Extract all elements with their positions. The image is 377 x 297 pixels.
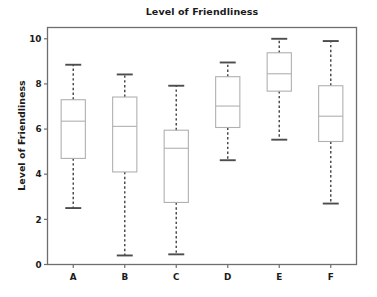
x-tick-group: ABCDEF bbox=[70, 265, 334, 282]
x-tick-label: D bbox=[224, 272, 231, 282]
boxplot-figure: Level of Friendliness Level of Friendlin… bbox=[0, 0, 377, 297]
x-tick-label: B bbox=[121, 272, 128, 282]
x-tick-label: A bbox=[70, 272, 77, 282]
plot-frame bbox=[48, 28, 357, 265]
y-tick-label: 8 bbox=[35, 79, 41, 89]
y-tick-label: 10 bbox=[29, 34, 41, 44]
x-tick-label: F bbox=[328, 272, 334, 282]
y-tick-label: 4 bbox=[35, 169, 41, 179]
y-tick-group: 0246810 bbox=[29, 34, 47, 270]
x-tick-label: E bbox=[276, 272, 282, 282]
x-tick-label: C bbox=[173, 272, 179, 282]
axes-group bbox=[48, 28, 357, 265]
y-tick-label: 6 bbox=[35, 124, 41, 134]
y-tick-label: 0 bbox=[35, 260, 41, 270]
plot-area: 0246810 ABCDEF bbox=[0, 0, 377, 297]
y-tick-label: 2 bbox=[35, 215, 41, 225]
